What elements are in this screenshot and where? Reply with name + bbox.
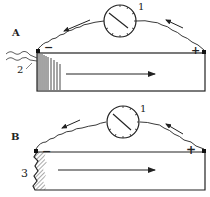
electrode-lead-upper-a: [6, 51, 37, 58]
positive-terminal-a: [202, 50, 206, 54]
current-arrow-right-b: [166, 124, 183, 134]
negative-sign-b: −: [42, 145, 51, 158]
electrode-lead-lower-a: [6, 57, 37, 61]
electrode-label-a: 2: [17, 64, 23, 75]
negative-terminal-b: [34, 149, 38, 153]
panel-a: A − +: [6, 1, 206, 91]
panel-label-a: A: [11, 27, 20, 38]
tissue-bar-a: [37, 53, 205, 91]
galvanometer-icon-b: [107, 106, 139, 138]
negative-terminal-a: [36, 49, 40, 53]
positive-sign-b: +: [186, 143, 196, 157]
tissue-bar-b: [33, 152, 205, 190]
meter-label-a: 1: [138, 1, 144, 12]
panel-b: B − + 1: [11, 103, 206, 190]
galvanometer-icon-a: [104, 5, 136, 37]
diagram-canvas: A − +: [0, 0, 210, 197]
meter-label-b: 1: [140, 103, 146, 114]
electrode-label-b: 3: [21, 167, 28, 180]
panel-label-b: B: [11, 131, 19, 142]
striated-end-a: [38, 54, 60, 90]
current-arrow-right-a: [166, 20, 183, 28]
current-arrow-left-a: [64, 20, 90, 31]
electrode-pointer-a: [26, 63, 32, 69]
positive-terminal-b: [202, 149, 206, 153]
current-arrow-left-b: [62, 120, 80, 128]
